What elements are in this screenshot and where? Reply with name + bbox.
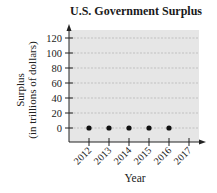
x-tick-label: 2012 [71, 145, 93, 167]
data-point [86, 125, 91, 130]
plot-background [69, 30, 199, 142]
data-point [146, 125, 151, 130]
y-tick-label: 100 [46, 48, 62, 59]
x-axis-label: Year [110, 172, 160, 184]
y-axis-arrow-icon [67, 24, 72, 31]
data-point [166, 125, 171, 130]
y-tick-label: 60 [52, 78, 63, 89]
x-tick-label: 2013 [91, 145, 113, 167]
x-tick-label: 2015 [131, 145, 153, 167]
chart: U.S. Government Surplus Surplus (in tril… [0, 0, 217, 193]
y-tick-label: 80 [52, 63, 63, 74]
plot-area: 020406080100120 201220132014201520162017 [0, 0, 217, 193]
x-tick-label: 2017 [171, 145, 193, 167]
y-tick-label: 120 [46, 33, 62, 44]
y-tick-label: 0 [57, 123, 62, 134]
y-tick-label: 20 [52, 108, 63, 119]
data-point [106, 125, 111, 130]
y-tick-label: 40 [52, 93, 63, 104]
data-point [126, 125, 131, 130]
x-tick-label: 2014 [111, 145, 133, 167]
x-tick-label: 2016 [151, 145, 173, 167]
x-axis-arrow-icon [199, 140, 206, 145]
